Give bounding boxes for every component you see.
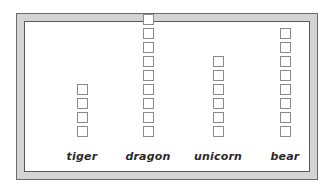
- unit-square: [143, 126, 154, 137]
- unit-square: [143, 84, 154, 95]
- label-dragon: dragon: [113, 150, 183, 163]
- unit-square: [280, 28, 291, 39]
- unit-square: [280, 112, 291, 123]
- column-dragon: [141, 11, 155, 137]
- unit-square: [213, 112, 224, 123]
- column-unicorn: [211, 53, 225, 137]
- chart-area: tiger dragon unicorn bear: [24, 21, 310, 172]
- unit-square: [213, 56, 224, 67]
- unit-square: [280, 126, 291, 137]
- unit-square: [143, 28, 154, 39]
- unit-square: [280, 42, 291, 53]
- unit-square: [143, 98, 154, 109]
- unit-square: [143, 42, 154, 53]
- unit-square: [280, 84, 291, 95]
- unit-square: [77, 98, 88, 109]
- unit-square: [143, 56, 154, 67]
- unit-square: [77, 112, 88, 123]
- label-tiger: tiger: [47, 150, 117, 163]
- unit-square: [280, 70, 291, 81]
- unit-square: [280, 98, 291, 109]
- unit-square: [143, 14, 154, 25]
- unit-square: [213, 84, 224, 95]
- unit-square: [213, 70, 224, 81]
- unit-square: [213, 98, 224, 109]
- unit-square: [77, 126, 88, 137]
- unit-square: [280, 56, 291, 67]
- unit-square: [143, 112, 154, 123]
- label-bear: bear: [250, 150, 320, 163]
- unit-square: [143, 70, 154, 81]
- column-tiger: [75, 81, 89, 137]
- unit-square: [77, 84, 88, 95]
- label-unicorn: unicorn: [183, 150, 253, 163]
- unit-square: [213, 126, 224, 137]
- column-bear: [278, 25, 292, 137]
- chart-frame: tiger dragon unicorn bear: [16, 13, 318, 180]
